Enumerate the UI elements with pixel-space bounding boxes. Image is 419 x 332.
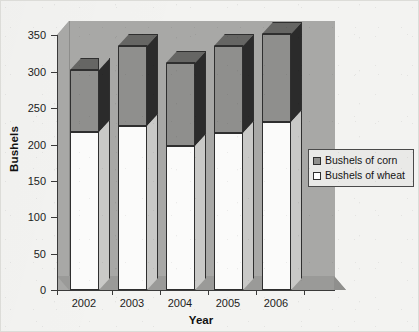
- x-tick-3: [208, 290, 209, 295]
- x-axis-line: [57, 290, 335, 291]
- bar-segment-wheat-2002: [70, 132, 99, 290]
- x-tick-label-2003: 2003: [106, 297, 158, 309]
- y-axis-line: [57, 35, 58, 290]
- y-tick-label-250: 250: [28, 103, 46, 114]
- y-tick-300: [51, 72, 58, 73]
- bar-front-face-corn-2003: [118, 46, 147, 126]
- x-axis-title: Year: [141, 314, 261, 326]
- y-axis-title: Bushels: [8, 114, 20, 184]
- bar-segment-corn-2006: [262, 34, 291, 122]
- bar-front-face-wheat-2006: [262, 122, 291, 290]
- bar-side-face-wheat-2003: [147, 114, 158, 290]
- bar-segment-wheat-2005: [214, 133, 243, 290]
- plot-floor-right-edge: [334, 276, 346, 290]
- x-tick-label-2005: 2005: [202, 297, 254, 309]
- y-tick-label-50: 50: [34, 249, 46, 260]
- y-tick-250: [51, 108, 58, 109]
- x-tick-4: [256, 290, 257, 295]
- bar-side-face-corn-2003: [147, 34, 158, 126]
- bar-segment-wheat-2004: [166, 146, 195, 290]
- bar-segment-corn-2003: [118, 46, 147, 126]
- legend-swatch-corn-icon: [313, 157, 321, 165]
- bar-front-face-corn-2002: [70, 70, 99, 132]
- stacked-column-chart: 350 300 250 200 150 100 50 0 Bushels: [1, 1, 418, 331]
- bar-front-face-corn-2005: [214, 46, 243, 133]
- y-tick-350: [51, 35, 58, 36]
- y-tick-label-100: 100: [28, 212, 46, 223]
- legend-label-wheat: Bushels of wheat: [325, 169, 405, 182]
- bar-side-face-wheat-2006: [291, 110, 302, 290]
- bar-front-face-wheat-2003: [118, 126, 147, 290]
- x-tick-1: [112, 290, 113, 295]
- x-tick-2: [160, 290, 161, 295]
- bar-side-face-corn-2006: [291, 22, 302, 122]
- bar-segment-wheat-2006: [262, 122, 291, 290]
- bar-side-face-corn-2004: [195, 51, 206, 146]
- x-tick-label-2002: 2002: [58, 297, 110, 309]
- bar-front-face-wheat-2005: [214, 133, 243, 290]
- chart-page: 350 300 250 200 150 100 50 0 Bushels: [0, 0, 419, 332]
- x-tick-5: [304, 290, 305, 295]
- bar-side-face-corn-2005: [243, 34, 254, 133]
- chart-legend: Bushels of corn Bushels of wheat: [308, 149, 414, 187]
- bar-front-face-corn-2006: [262, 34, 291, 122]
- legend-item-wheat: Bushels of wheat: [313, 169, 408, 182]
- bar-segment-corn-2005: [214, 46, 243, 133]
- legend-swatch-wheat-icon: [313, 172, 321, 180]
- legend-label-corn: Bushels of corn: [325, 154, 397, 167]
- y-tick-150: [51, 181, 58, 182]
- y-tick-200: [51, 145, 58, 146]
- bar-side-face-wheat-2005: [243, 121, 254, 290]
- bar-front-face-corn-2004: [166, 63, 195, 146]
- bar-segment-corn-2002: [70, 70, 99, 132]
- y-tick-50: [51, 254, 58, 255]
- y-tick-label-200: 200: [28, 140, 46, 151]
- y-tick-label-150: 150: [28, 176, 46, 187]
- y-tick-label-300: 300: [28, 67, 46, 78]
- bar-side-face-wheat-2002: [99, 120, 110, 290]
- legend-item-corn: Bushels of corn: [313, 154, 408, 167]
- plot-wall-left-skew: [57, 21, 69, 290]
- bar-side-face-corn-2002: [99, 58, 110, 132]
- y-tick-label-350: 350: [28, 30, 46, 41]
- bar-side-face-wheat-2004: [195, 134, 206, 290]
- y-tick-label-0: 0: [40, 285, 46, 296]
- x-tick-label-2006: 2006: [250, 297, 302, 309]
- bar-segment-wheat-2003: [118, 126, 147, 290]
- x-tick-start: [57, 290, 58, 295]
- y-tick-100: [51, 217, 58, 218]
- x-tick-label-2004: 2004: [154, 297, 206, 309]
- bar-front-face-wheat-2002: [70, 132, 99, 290]
- bar-segment-corn-2004: [166, 63, 195, 146]
- bar-front-face-wheat-2004: [166, 146, 195, 290]
